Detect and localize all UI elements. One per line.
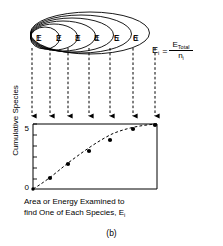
x-axis-caption: Area or Energy Examined to find One of E… bbox=[24, 196, 184, 221]
data-point-0 bbox=[31, 187, 34, 190]
cumulative-species-plot: 5 0 bbox=[0, 118, 185, 196]
dashed-arrow-group bbox=[0, 48, 223, 123]
data-point-2 bbox=[66, 162, 70, 166]
y-axis-ticks bbox=[33, 124, 37, 179]
data-point-1 bbox=[48, 176, 52, 180]
y-tick-label-0: 0 bbox=[25, 183, 30, 192]
data-point-group bbox=[31, 123, 157, 191]
y-axis-title: Cumulative Species bbox=[11, 78, 20, 164]
x-axis-caption-line1: Area or Energy Examined to bbox=[24, 196, 184, 207]
data-point-4 bbox=[108, 138, 112, 142]
figure-panel-b: E1 E2 E3 E4 E5 E6 Ei = ETotal ni bbox=[0, 0, 223, 246]
data-point-5 bbox=[131, 127, 135, 131]
panel-letter: (b) bbox=[0, 228, 223, 238]
y-tick-label-5: 5 bbox=[25, 124, 30, 133]
data-point-3 bbox=[87, 149, 91, 153]
data-point-6 bbox=[153, 123, 157, 127]
x-axis-caption-line2: find One of Each Species, Ei bbox=[24, 207, 184, 221]
